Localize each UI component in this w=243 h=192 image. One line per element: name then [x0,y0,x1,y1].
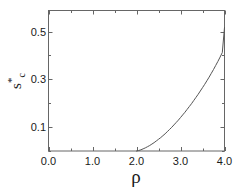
y-axis-label: s*c [4,73,29,89]
x-tick-label: 1.0 [85,155,100,167]
x-tick-label: 0.0 [41,155,56,167]
y-tick-label: 0.1 [31,121,46,133]
y-axis-minor-ticks [49,56,225,152]
x-axis-minor-ticks [72,11,204,152]
chart-figure: 0.01.02.03.04.0 0.10.30.5 ρ s*c [0,0,243,192]
y-axis-major-ticks [49,33,225,128]
y-tick-label: 0.5 [31,26,46,38]
y-axis-label-superscript: * [5,78,17,84]
plot-frame [49,11,225,152]
x-axis-label-text: ρ [131,166,140,187]
x-tick-label: 4.0 [217,155,232,167]
x-axis-label: ρ [131,167,140,186]
y-tick-label: 0.3 [31,73,46,85]
x-axis-major-ticks [50,11,226,152]
y-axis-label-subscript: c [16,73,27,77]
x-tick-label: 3.0 [173,155,188,167]
y-axis-label-base: s [8,83,24,89]
data-series-curve [137,27,225,151]
